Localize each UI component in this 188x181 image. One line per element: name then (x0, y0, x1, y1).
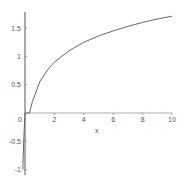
y-tick-label: 0.5 (11, 81, 21, 88)
chart: 0246810-1-0.511.50.5 x (0, 0, 188, 181)
x-tick-label: 8 (141, 116, 145, 123)
y-tick-label: 1.5 (11, 25, 21, 32)
y-tick-label: -0.5 (9, 138, 21, 145)
x-tick-label: 10 (168, 116, 176, 123)
x-tick-label: 0 (18, 116, 22, 123)
data-line (23, 16, 172, 169)
x-tick-label: 4 (82, 116, 86, 123)
x-axis-label: x (95, 127, 99, 134)
x-tick-label: 2 (52, 116, 56, 123)
axes: 0246810-1-0.511.50.5 (9, 12, 176, 175)
y-tick-label: -1 (15, 166, 21, 173)
chart-svg: 0246810-1-0.511.50.5 x (0, 0, 188, 181)
y-tick-label: 1 (17, 53, 21, 60)
x-tick-label: 6 (111, 116, 115, 123)
